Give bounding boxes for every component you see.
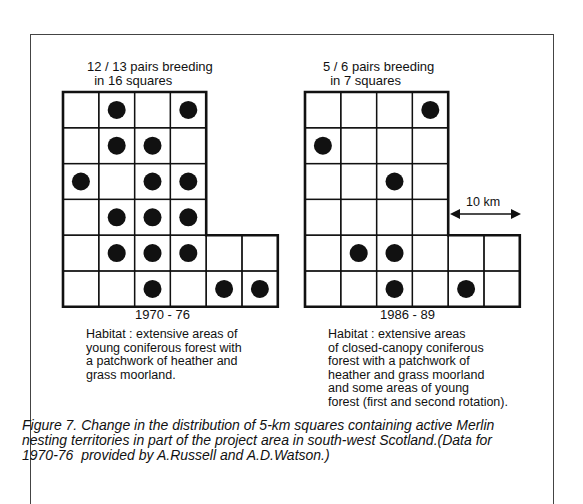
right-habitat-text: Habitat : extensive areas of closed-cano… bbox=[328, 328, 508, 409]
figure-caption: Figure 7. Change in the distribution of … bbox=[22, 418, 494, 463]
right-panel-title: 5 / 6 pairs breeding in 7 squares bbox=[323, 60, 434, 88]
left-habitat-text: Habitat : extensive areas of young conif… bbox=[86, 328, 242, 382]
left-period-label: 1970 - 76 bbox=[135, 307, 190, 322]
right-period-label: 1986 - 89 bbox=[380, 307, 435, 322]
scale-bar-label: 10 km bbox=[466, 195, 500, 209]
left-panel-title: 12 / 13 pairs breeding in 16 squares bbox=[87, 60, 213, 88]
